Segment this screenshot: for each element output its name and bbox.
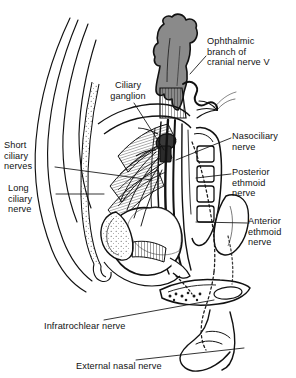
- anatomical-figure: Ophthalmic branch of cranial nerve V Cil…: [0, 0, 296, 378]
- label-anterior-ethmoid-nerve: Anterior ethmoid nerve: [248, 216, 296, 248]
- label-nasociliary-nerve: Nasociliary nerve: [232, 131, 296, 152]
- label-posterior-ethmoid-nerve: Posterior ethmoid nerve: [232, 167, 294, 199]
- label-ophthalmic-branch-cranial-nerve-v: Ophthalmic branch of cranial nerve V: [207, 36, 295, 68]
- label-infratrochlear-nerve: Infratrochlear nerve: [44, 321, 176, 332]
- ethmoid-cell-2: [197, 166, 214, 182]
- label-ciliary-ganglion: Ciliary ganglion: [98, 80, 158, 101]
- label-short-ciliary-nerves: Short ciliary nerves: [4, 140, 56, 172]
- optic-canal-hatched-bone: [160, 88, 186, 118]
- label-long-ciliary-nerve: Long ciliary nerve: [8, 183, 56, 215]
- label-external-nasal-nerve: External nasal nerve: [76, 361, 212, 372]
- ethmoid-cell-3: [197, 186, 214, 202]
